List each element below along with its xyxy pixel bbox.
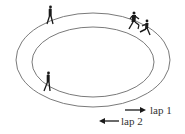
- inner-track-lane: [32, 27, 154, 97]
- runner-icon: [129, 12, 139, 30]
- legend-label-lap-2: lap 2: [121, 115, 143, 127]
- running-track-diagram: lap 1 lap 2: [0, 0, 185, 134]
- runner-icon: [44, 72, 50, 91]
- legend-lap-2: lap 2: [99, 115, 143, 127]
- legend-label-lap-1: lap 1: [150, 104, 172, 116]
- arrow-left-head-icon: [99, 118, 105, 124]
- arrow-right-head-icon: [140, 107, 146, 113]
